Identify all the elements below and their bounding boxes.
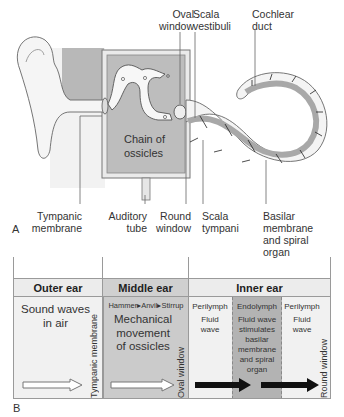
header-middle-ear: Middle ear [102,278,188,297]
solid-arrow-icon [261,377,321,393]
auditory-tube [142,178,150,200]
header-inner-ear: Inner ear [188,278,331,297]
label-auditory-tube: Auditory tube [100,210,147,234]
label-tympanic-membrane: Tympanic membrane [30,210,82,234]
cochlear-duct [188,84,316,155]
middle-ear-description: Mechanical movement of ossicles [103,313,183,354]
label-scala-vestibuli: Scala vestibuli [193,8,231,32]
label-oval-window: Oval window [150,8,194,32]
inner-col1-text: Fluid wave [188,315,232,335]
divider-tick [102,257,103,278]
inner-col2-text: Fluid wave stimulates basilar membrane a… [232,315,282,375]
stapes [174,105,186,119]
label-scala-tympani: Scala tympani [202,210,239,234]
boundary-tympanic-membrane: Tympanic membrane [89,318,99,398]
divider-tick [330,257,331,278]
label-basilar-membrane: Basilar membrane and spiral organ [263,210,313,258]
inner-col2-title: Endolymph [232,302,282,312]
label-round-window: Round window [150,210,191,234]
ossicle-sequence: Hammer▸Anvil▸Stirrup [103,301,189,311]
inner-col3-title: Perilymph [282,302,322,312]
header-outer-ear: Outer ear [13,278,102,297]
divider-tick [13,257,14,278]
panel-letter-a: A [12,223,19,235]
divider-tick [188,257,189,278]
label-cochlear-duct: Cochlear duct [252,8,294,32]
label-chain-of-ossicles: Chain of ossicles [124,132,165,160]
solid-arrow-icon [195,377,253,393]
hollow-arrow-icon [110,378,176,392]
inner-col1-title: Perilymph [188,302,232,312]
tympanic-membrane [102,98,108,114]
boundary-oval-window: Oval window [176,340,186,398]
panel-letter-b: B [13,402,20,414]
outer-ear-description: Sound waves in air [13,302,98,330]
hollow-arrow-icon [22,378,84,392]
table-bottom-border [13,398,331,399]
inner-col3-text: Fluid wave [282,315,322,335]
